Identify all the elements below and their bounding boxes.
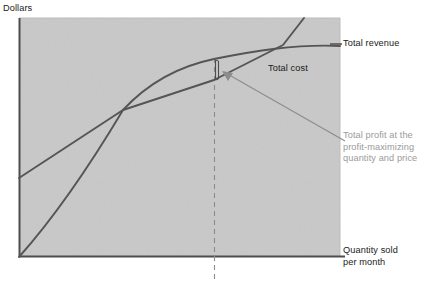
y-axis-label: Dollars xyxy=(3,3,32,15)
x-axis-label-line1: Quantity sold xyxy=(343,245,398,255)
plot-area-texture xyxy=(19,18,340,257)
total-revenue-label: Total revenue xyxy=(343,38,399,50)
profit-annotation-text: Total profit at the profit-maximizing qu… xyxy=(343,130,435,165)
total-cost-label: Total cost xyxy=(268,63,308,75)
x-axis-label: Quantity sold per month xyxy=(343,245,398,268)
x-axis-label-line2: per month xyxy=(343,257,385,267)
